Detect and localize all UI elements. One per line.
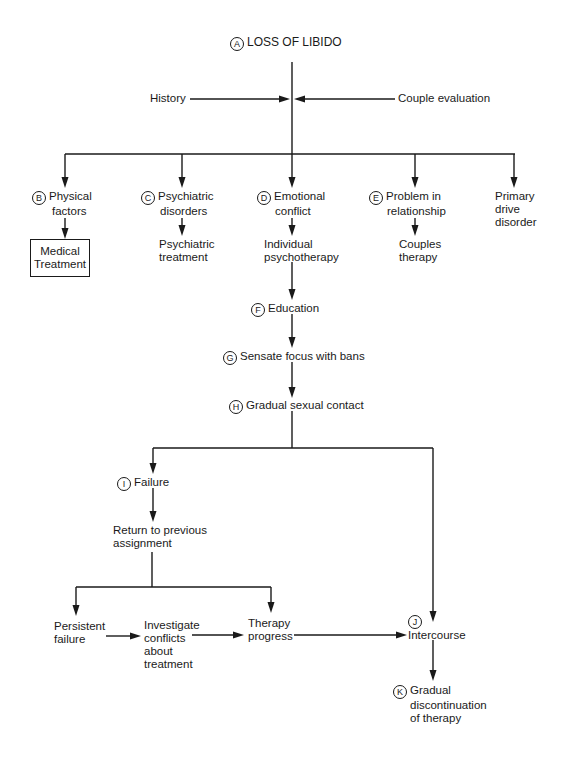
flowchart-connectors xyxy=(0,0,562,761)
node-history: History xyxy=(150,92,186,105)
node-primary-drive-disorder: Primary drive disorder xyxy=(495,190,537,229)
node-progress-line2: progress xyxy=(248,630,293,643)
node-investigate-line4: treatment xyxy=(144,658,200,671)
node-progress-line1: Therapy xyxy=(248,617,293,630)
node-j-intercourse: J Intercourse xyxy=(408,614,466,642)
node-e-line2: relationship xyxy=(369,205,446,218)
node-psychiatric-treatment: Psychiatric treatment xyxy=(159,238,215,264)
node-couple-evaluation: Couple evaluation xyxy=(398,92,490,105)
node-investigate-conflicts: Investigate conflicts about treatment xyxy=(144,619,200,671)
node-d-emotional-conflict: DEmotional conflict xyxy=(257,190,325,218)
node-e-problem-in-relationship: EProblem in relationship xyxy=(369,190,446,218)
node-primary-line1: Primary xyxy=(495,190,537,203)
node-a-loss-of-libido: ALOSS OF LIBIDO xyxy=(230,36,342,51)
node-b-line1: Physical xyxy=(49,190,92,202)
node-h-gradual-sexual-contact: HGradual sexual contact xyxy=(229,399,364,414)
node-k-line3: of therapy xyxy=(393,712,487,725)
node-c-psychiatric-disorders: CPsychiatric disorders xyxy=(141,190,214,218)
node-f-label: Education xyxy=(268,302,319,314)
node-g-sensate-focus: GSensate focus with bans xyxy=(223,350,365,365)
node-therapy-progress: Therapy progress xyxy=(248,617,293,643)
node-h-label: Gradual sexual contact xyxy=(246,399,364,411)
node-persistent-line1: Persistent xyxy=(54,620,105,633)
node-return-line2: assignment xyxy=(113,537,207,550)
node-i-label: Failure xyxy=(134,476,169,488)
node-d-line1: Emotional xyxy=(274,190,325,202)
node-persistent-failure: Persistent failure xyxy=(54,620,105,646)
node-primary-line2: drive xyxy=(495,203,537,216)
node-b-line2: factors xyxy=(32,205,92,218)
node-g-label: Sensate focus with bans xyxy=(240,350,365,362)
node-couples-therapy: Couples therapy xyxy=(399,238,441,264)
node-k-line2: discontinuation xyxy=(393,699,487,712)
node-d-tx-line1: Individual xyxy=(264,238,339,251)
node-a-label: LOSS OF LIBIDO xyxy=(247,35,342,49)
node-c-tx-line1: Psychiatric xyxy=(159,238,215,251)
node-primary-line3: disorder xyxy=(495,216,537,229)
node-medical-treatment-box: MedicalTreatment xyxy=(30,239,90,277)
node-return-line1: Return to previous xyxy=(113,524,207,537)
badge-h-icon: H xyxy=(229,400,243,414)
badge-d-icon: D xyxy=(257,191,271,205)
node-j-label: Intercourse xyxy=(408,629,466,642)
badge-f-icon: F xyxy=(251,303,265,317)
node-d-tx-line2: psychotherapy xyxy=(264,251,339,264)
badge-c-icon: C xyxy=(141,191,155,205)
badge-a-icon: A xyxy=(230,37,244,51)
node-e-tx-line1: Couples xyxy=(399,238,441,251)
node-b-physical-factors: BPhysical factors xyxy=(32,190,92,218)
node-medical-line2: Treatment xyxy=(34,258,86,271)
badge-j-icon: J xyxy=(408,615,422,629)
badge-b-icon: B xyxy=(32,191,46,205)
node-investigate-line2: conflicts xyxy=(144,632,200,645)
badge-g-icon: G xyxy=(223,351,237,365)
node-f-education: FEducation xyxy=(251,302,319,317)
node-persistent-line2: failure xyxy=(54,633,105,646)
badge-k-icon: K xyxy=(393,685,407,699)
node-d-line2: conflict xyxy=(257,205,325,218)
node-i-failure: IFailure xyxy=(117,476,169,491)
badge-i-icon: I xyxy=(117,477,131,491)
node-return-previous-assignment: Return to previous assignment xyxy=(113,524,207,550)
node-c-tx-line2: treatment xyxy=(159,251,215,264)
node-c-line2: disorders xyxy=(141,205,214,218)
node-investigate-line3: about xyxy=(144,645,200,658)
node-c-line1: Psychiatric xyxy=(158,190,214,202)
node-e-line1: Problem in xyxy=(386,190,441,202)
node-investigate-line1: Investigate xyxy=(144,619,200,632)
node-individual-psychotherapy: Individual psychotherapy xyxy=(264,238,339,264)
node-medical-line1: Medical xyxy=(34,245,86,258)
node-k-line1: Gradual xyxy=(410,684,451,696)
node-k-gradual-discontinuation: KGradual discontinuation of therapy xyxy=(393,684,487,725)
badge-e-icon: E xyxy=(369,191,383,205)
node-e-tx-line2: therapy xyxy=(399,251,441,264)
